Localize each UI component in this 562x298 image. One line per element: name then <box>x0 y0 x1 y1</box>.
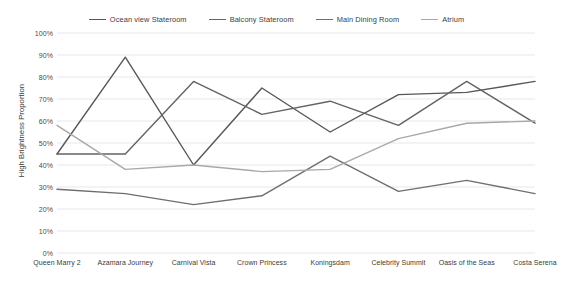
plot-area <box>57 33 535 253</box>
legend-item-label: Balcony Stateroom <box>230 15 294 24</box>
y-axis-tick: 90% <box>7 52 53 59</box>
legend-item[interactable]: Balcony Stateroom <box>209 15 294 24</box>
x-axis-tick: Koningsdam <box>293 258 367 268</box>
series-line[interactable] <box>57 57 535 165</box>
x-axis-tick: Celebrity Summit <box>361 258 435 268</box>
x-axis-tick-labels: Queen Marry 2Azamara JourneyCarnival Vis… <box>57 258 535 294</box>
series-line[interactable] <box>57 121 535 172</box>
legend-item-label: Atrium <box>442 15 464 24</box>
y-axis-tick: 70% <box>7 96 53 103</box>
y-axis-tick: 80% <box>7 74 53 81</box>
y-axis-tick: 20% <box>7 206 53 213</box>
chart-legend: Ocean view StateroomBalcony StateroomMai… <box>0 10 553 28</box>
y-axis-tick-labels: 0%10%20%30%40%50%60%70%80%90%100% <box>0 33 53 253</box>
x-axis-tick: Queen Marry 2 <box>20 258 94 268</box>
x-axis-tick: Carnival Vista <box>157 258 231 268</box>
legend-color-swatch <box>89 19 106 20</box>
x-axis-tick: Azamara Journey <box>88 258 162 268</box>
x-axis-tick: Crown Princess <box>225 258 299 268</box>
legend-item-label: Ocean view Stateroom <box>110 15 187 24</box>
legend-item[interactable]: Ocean view Stateroom <box>89 15 187 24</box>
legend-item-label: Main Dining Room <box>337 15 399 24</box>
legend-color-swatch <box>421 19 438 20</box>
y-axis-tick: 10% <box>7 228 53 235</box>
legend-item[interactable]: Atrium <box>421 15 464 24</box>
y-axis-tick: 100% <box>7 30 53 37</box>
y-axis-tick: 0% <box>7 250 53 257</box>
legend-color-swatch <box>209 19 226 20</box>
y-axis-tick: 30% <box>7 184 53 191</box>
y-axis-tick: 50% <box>7 140 53 147</box>
y-axis-tick: 60% <box>7 118 53 125</box>
y-axis-tick: 40% <box>7 162 53 169</box>
legend-color-swatch <box>316 19 333 20</box>
x-axis-tick: Oasis of the Seas <box>430 258 504 268</box>
series-lines <box>57 33 535 253</box>
x-axis-tick: Costa Serena <box>498 258 562 268</box>
legend-item[interactable]: Main Dining Room <box>316 15 399 24</box>
series-line[interactable] <box>57 156 535 204</box>
